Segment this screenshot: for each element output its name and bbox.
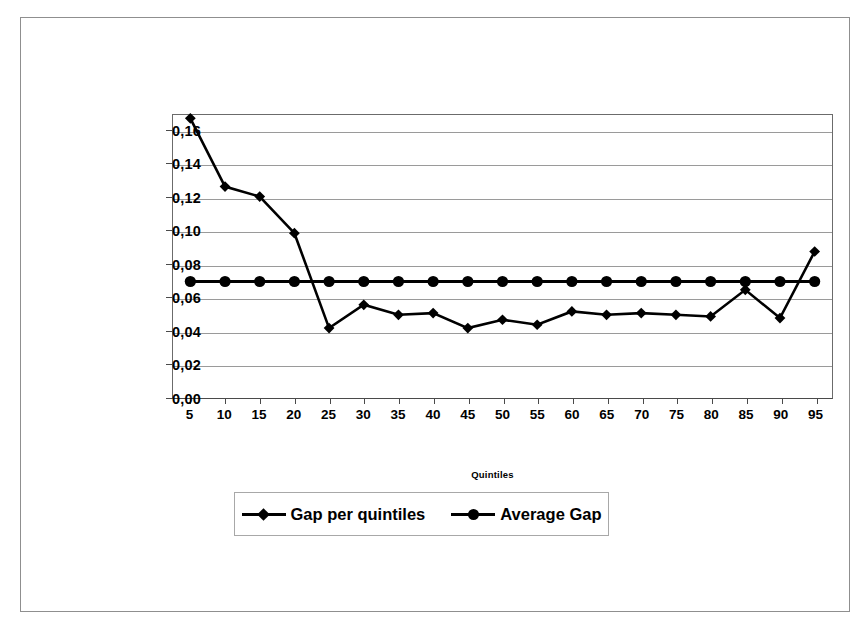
x-axis-tick-mark [712,398,713,404]
x-axis-tick-mark [573,398,574,404]
circle-marker-icon [462,276,473,287]
x-axis-tick-label: 90 [773,407,788,422]
x-axis-tick-label: 10 [217,407,232,422]
x-axis-tick-label: 75 [669,407,684,422]
x-axis-tick-label: 45 [460,407,475,422]
x-axis-tick-mark [399,398,400,404]
legend-item-gap-per-quintiles: Gap per quintiles [242,505,426,524]
circle-marker-icon [809,276,820,287]
x-axis-tick-label: 30 [356,407,371,422]
x-axis-tick-mark [677,398,678,404]
y-axis-tick-mark [166,297,172,298]
legend-item-average-gap: Average Gap [451,505,601,524]
plot-area [172,114,833,399]
x-axis-tick-mark [643,398,644,404]
y-axis-tick-mark [166,364,172,365]
plot-wrapper: 0,000,020,040,060,080,100,120,140,16 510… [152,114,833,399]
x-axis-tick-label: 40 [425,407,440,422]
circle-marker-icon [323,276,334,287]
x-axis-tick-mark [295,398,296,404]
x-axis-tick-mark [225,398,226,404]
x-axis-tick-label: 15 [251,407,266,422]
circle-marker-icon [705,276,716,287]
x-axis-tick-label: 60 [565,407,580,422]
x-axis-tick-label: 20 [286,407,301,422]
circle-marker-icon [497,276,508,287]
x-axis-tick-label: 55 [530,407,545,422]
chart-frame: 0,000,020,040,060,080,100,120,140,16 510… [20,17,850,612]
y-axis-tick-mark [166,230,172,231]
x-axis-tick-label: 5 [186,407,194,422]
y-axis-tick-mark [166,130,172,131]
circle-marker-icon [601,276,612,287]
x-axis-tick-mark [782,398,783,404]
y-axis-tick-mark [166,163,172,164]
x-axis-tick-label: 25 [321,407,336,422]
diamond-marker-icon [532,319,543,330]
y-axis-tick-mark [166,398,172,399]
circle-marker-icon [566,276,577,287]
circle-marker-icon [532,276,543,287]
x-axis-tick-label: 85 [739,407,754,422]
x-axis-tick-mark [260,398,261,404]
circle-marker-icon [428,276,439,287]
diamond-marker-icon [636,308,647,319]
diamond-marker-icon [462,323,473,334]
x-axis-tick-label: 65 [599,407,614,422]
series-average-gap [185,276,820,287]
x-axis-title: Quintiles [152,469,833,480]
series-gap-per-quintiles [185,113,820,333]
x-axis-tick-mark [434,398,435,404]
diamond-marker-icon [242,506,286,522]
circle-marker-icon [740,276,751,287]
diamond-marker-icon [220,181,231,192]
x-axis-tick-label: 50 [495,407,510,422]
circle-marker-icon [254,276,265,287]
chart-legend: Gap per quintiles Average Gap [234,492,609,536]
circle-marker-icon [185,276,196,287]
circle-marker-icon [219,276,230,287]
x-axis-tick-mark [469,398,470,404]
x-axis-tick-mark [538,398,539,404]
y-axis-tick-mark [166,197,172,198]
circle-marker-icon [289,276,300,287]
diamond-marker-icon [393,309,404,320]
circle-marker-icon [636,276,647,287]
diamond-marker-icon [497,314,508,325]
diamond-marker-icon [601,309,612,320]
x-axis-tick-mark [364,398,365,404]
x-axis-tick-mark [817,398,818,404]
y-axis-tick-mark [166,331,172,332]
x-axis-tick-mark [747,398,748,404]
x-axis-tick-label: 35 [391,407,406,422]
circle-marker-icon [670,276,681,287]
circle-marker-icon [393,276,404,287]
x-axis-tick-mark [504,398,505,404]
x-axis-tick-label: 95 [808,407,823,422]
legend-label: Gap per quintiles [291,505,426,524]
diamond-marker-icon [428,308,439,319]
x-axis-tick-label: 70 [634,407,649,422]
diamond-marker-icon [809,246,820,257]
circle-marker-icon [451,506,495,522]
legend-label: Average Gap [500,505,601,524]
diamond-marker-icon [671,309,682,320]
y-axis-tick-mark [166,264,172,265]
series-line [190,118,814,328]
series-layer [173,115,832,398]
x-axis-tick-label: 80 [704,407,719,422]
diamond-marker-icon [566,306,577,317]
x-axis-tick-mark [608,398,609,404]
circle-marker-icon [358,276,369,287]
circle-marker-icon [774,276,785,287]
x-axis-tick-mark [330,398,331,404]
